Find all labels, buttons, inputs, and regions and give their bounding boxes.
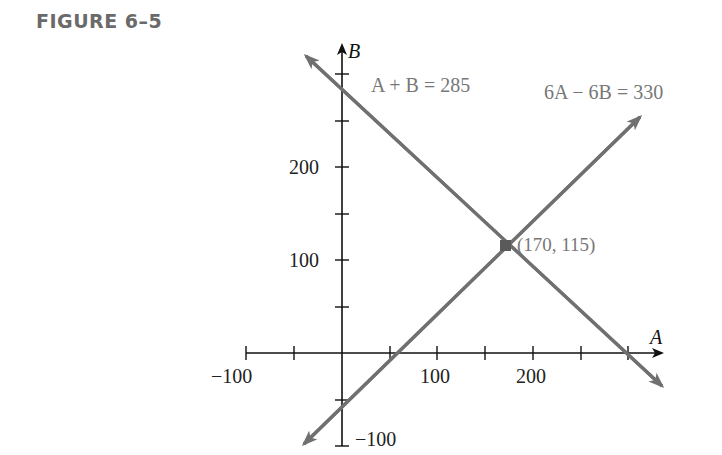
chart-canvas: −100 100 200 A 200 100 −100 B A + B = 28…: [0, 0, 722, 455]
y-axis: 200 100 −100 B: [289, 40, 396, 450]
y-tick-label-100: 100: [289, 249, 319, 271]
x-tick-label-200: 200: [516, 365, 546, 387]
equation-label-1: A + B = 285: [371, 74, 470, 96]
y-axis-label: B: [348, 40, 360, 62]
y-tick-label-200: 200: [289, 156, 319, 178]
x-axis: −100 100 200 A: [211, 326, 663, 387]
intersection-marker: [500, 240, 511, 251]
equation-label-2: 6A − 6B = 330: [544, 81, 663, 103]
intersection-label: (170, 115): [517, 234, 595, 256]
y-tick-label-neg100: −100: [355, 428, 396, 450]
series-line-a-plus-b: A + B = 285: [306, 56, 662, 386]
series-line-6a-minus-6b: 6A − 6B = 330: [304, 81, 663, 444]
x-tick-label-neg100: −100: [211, 365, 252, 387]
x-tick-label-100: 100: [420, 365, 450, 387]
x-axis-label: A: [648, 326, 663, 348]
